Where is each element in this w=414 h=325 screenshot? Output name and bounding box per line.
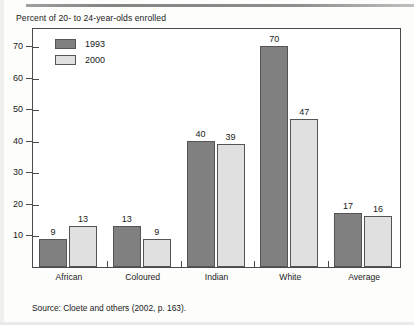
legend-item: 1993	[55, 37, 105, 50]
y-axis-tick-label: 70	[13, 41, 23, 52]
bar-african-1993: 9	[39, 239, 67, 267]
bar-value-label: 13	[78, 214, 88, 224]
y-axis-tick-label: 40	[13, 136, 23, 147]
scan-rule-artifact-top	[26, 4, 414, 7]
x-axis-label-african: African	[56, 272, 83, 283]
bar-value-label: 47	[299, 107, 309, 117]
x-axis-labels: AfricanColouredIndianWhiteAverage	[32, 272, 401, 286]
x-axis-label-average: Average	[348, 272, 380, 283]
chart-legend: 1993 2000	[55, 37, 105, 69]
y-axis-tick-label: 20	[13, 199, 23, 210]
x-axis-group-separator	[181, 261, 182, 267]
bar-value-label: 70	[269, 34, 279, 44]
y-axis-tick-mark-inner	[33, 142, 39, 143]
bar-african-2000: 13	[69, 226, 97, 267]
bar-value-label: 39	[225, 132, 235, 142]
y-axis-tick-mark-inner	[33, 173, 39, 174]
y-axis-tick-mark-inner	[33, 79, 39, 80]
bar-coloured-2000: 9	[143, 239, 171, 267]
y-axis: 10203040506070	[0, 28, 32, 268]
legend-item: 2000	[55, 53, 105, 66]
legend-label-2000: 2000	[85, 55, 105, 65]
bar-average-1993: 17	[334, 213, 362, 267]
bar-indian-2000: 39	[217, 144, 245, 267]
bar-value-label: 17	[343, 201, 353, 211]
y-axis-tick-mark-inner	[33, 205, 39, 206]
x-axis-label-white: White	[279, 272, 301, 283]
source-note: Source: Cloete and others (2002, p. 163)…	[32, 303, 186, 313]
bar-value-label: 9	[50, 227, 55, 237]
y-axis-tick-label: 30	[13, 167, 23, 178]
x-axis-group-separator	[328, 261, 329, 267]
y-axis-tick-label: 10	[13, 230, 23, 241]
bar-white-1993: 70	[260, 46, 288, 267]
x-axis-group-separator	[254, 261, 255, 267]
bar-white-2000: 47	[290, 119, 318, 267]
y-axis-tick-mark-inner	[33, 47, 39, 48]
plot-area: 913139403970471716 1993 2000	[32, 28, 401, 268]
x-axis-label-indian: Indian	[205, 272, 228, 283]
legend-label-1993: 1993	[85, 39, 105, 49]
bar-value-label: 40	[195, 129, 205, 139]
bar-average-2000: 16	[364, 216, 392, 267]
y-axis-tick-mark-inner	[33, 236, 39, 237]
legend-swatch-2000	[55, 55, 76, 65]
x-axis-group-separator	[107, 261, 108, 267]
bar-coloured-1993: 13	[113, 226, 141, 267]
chart-title: Percent of 20- to 24-year-olds enrolled	[16, 13, 166, 23]
y-axis-tick-label: 50	[13, 104, 23, 115]
legend-swatch-1993	[55, 39, 76, 49]
bar-indian-1993: 40	[187, 141, 215, 267]
bar-value-label: 9	[154, 227, 159, 237]
bar-value-label: 16	[373, 204, 383, 214]
y-axis-tick-mark-inner	[33, 110, 39, 111]
x-axis-label-coloured: Coloured	[125, 272, 160, 283]
bar-value-label: 13	[122, 214, 132, 224]
y-axis-tick-label: 60	[13, 73, 23, 84]
